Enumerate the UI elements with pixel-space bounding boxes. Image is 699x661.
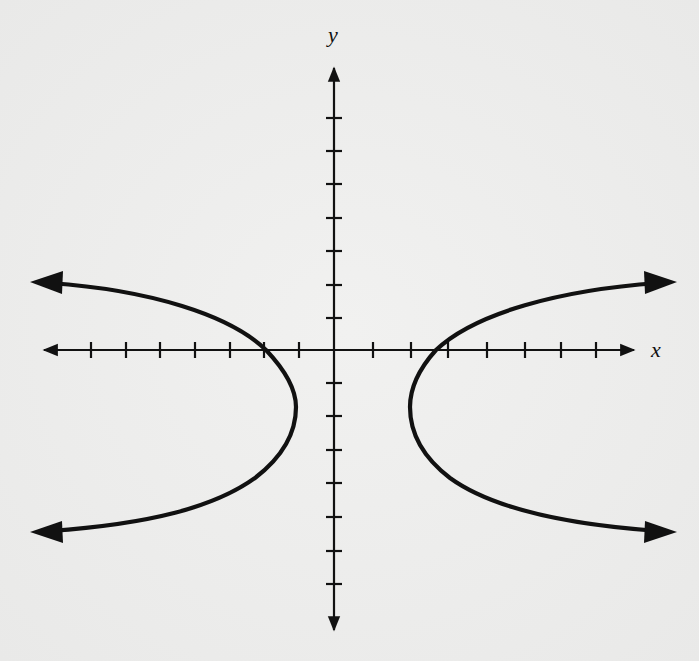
arrowhead-right-bottom <box>644 521 677 543</box>
hyperbola-left-branch <box>50 283 296 531</box>
hyperbola-graph <box>0 0 699 661</box>
arrowhead-left-bottom <box>30 521 63 543</box>
arrowhead-left-top <box>30 271 63 294</box>
graph-page: y x <box>0 0 699 661</box>
arrowhead-right-top <box>644 271 677 294</box>
x-axis-label: x <box>651 337 661 363</box>
hyperbola-right-branch <box>410 283 658 531</box>
y-axis-label: y <box>328 22 338 48</box>
